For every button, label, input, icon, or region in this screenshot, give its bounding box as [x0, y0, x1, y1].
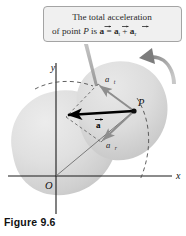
- figure-caption: Figure 9.6: [4, 216, 56, 228]
- callout-ar-subscript: r: [134, 31, 136, 37]
- callout-plus: +: [120, 26, 130, 36]
- point-P-marker: [131, 108, 136, 113]
- callout-is: is: [89, 26, 100, 36]
- callout-balloon: The total acceleration of point P is a =…: [44, 7, 182, 42]
- callout-line-2: of point P is a = at + ar: [52, 26, 136, 37]
- label-ar-base: a: [106, 140, 110, 150]
- rigid-body-shape: [11, 61, 167, 195]
- figure-9-6: y x O: [0, 0, 186, 236]
- x-axis-label: x: [175, 170, 181, 181]
- label-a-total: a: [96, 120, 101, 130]
- rotation-arrow-head: [139, 48, 155, 64]
- y-axis-label: y: [50, 62, 56, 73]
- callout-equals: =: [104, 26, 114, 36]
- origin-label: O: [45, 180, 53, 191]
- figure-canvas: y x O: [0, 0, 186, 236]
- callout-line-1: The total acceleration: [72, 12, 152, 22]
- point-P-label: P: [137, 97, 145, 108]
- label-at-base: a: [105, 74, 109, 84]
- callout-of-point: of point: [52, 26, 83, 36]
